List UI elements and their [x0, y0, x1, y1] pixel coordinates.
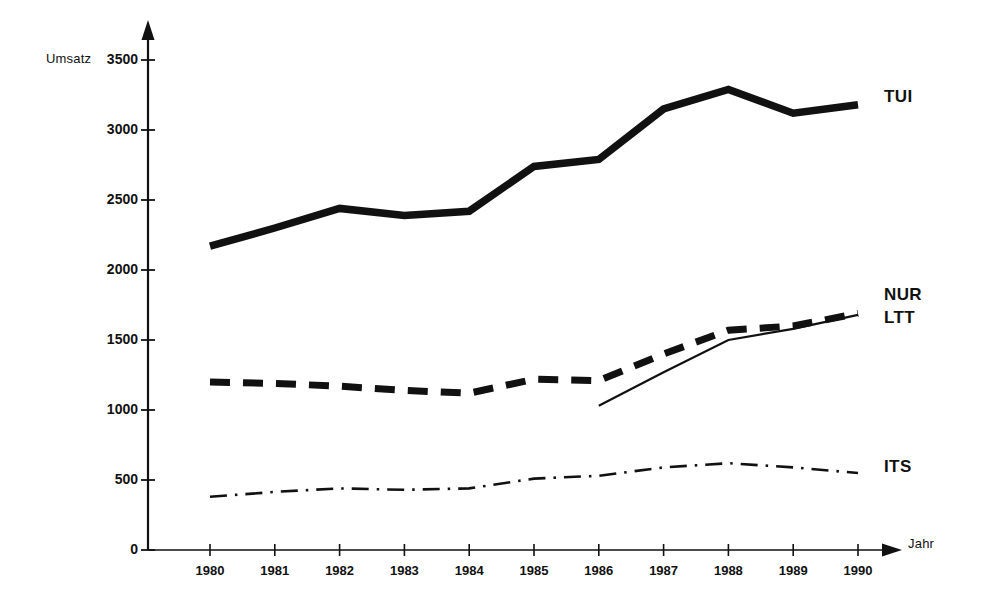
x-tick-label: 1982: [312, 563, 368, 578]
y-tick-label: 3500: [80, 51, 138, 67]
x-tick-label: 1990: [830, 563, 886, 578]
x-tick-label: 1985: [506, 563, 562, 578]
y-tick-label: 3000: [80, 121, 138, 137]
series-label-nur: NUR: [884, 285, 922, 305]
series-label-ltt: LTT: [884, 308, 915, 328]
chart-plot-area: [0, 0, 986, 611]
y-tick-label: 1000: [80, 401, 138, 417]
x-axis-title: Jahr: [908, 536, 934, 551]
x-tick-label: 1986: [571, 563, 627, 578]
y-tick-label: 500: [80, 471, 138, 487]
x-tick-label: 1988: [700, 563, 756, 578]
y-tick-label: 2000: [80, 261, 138, 277]
x-tick-label: 1983: [376, 563, 432, 578]
y-tick-label: 0: [80, 541, 138, 557]
series-label-its: ITS: [884, 457, 912, 477]
x-axis-arrowhead: [882, 544, 902, 557]
chart-canvas: Umsatz Jahr 0500100015002000250030003500…: [0, 0, 986, 611]
series-layer: [210, 89, 858, 496]
y-tick-label: 1500: [80, 331, 138, 347]
x-tick-label: 1980: [182, 563, 238, 578]
axes-layer: [142, 20, 903, 557]
series-line-its: [210, 463, 858, 497]
y-tick-label: 2500: [80, 191, 138, 207]
x-tick-label: 1989: [765, 563, 821, 578]
x-tick-label: 1984: [441, 563, 497, 578]
x-tick-label: 1987: [636, 563, 692, 578]
x-tick-label: 1981: [247, 563, 303, 578]
ticks-layer: [141, 60, 858, 556]
series-label-tui: TUI: [884, 87, 913, 107]
series-line-tui: [210, 89, 858, 246]
series-line-nur: [210, 313, 858, 393]
y-axis-arrowhead: [142, 20, 155, 40]
